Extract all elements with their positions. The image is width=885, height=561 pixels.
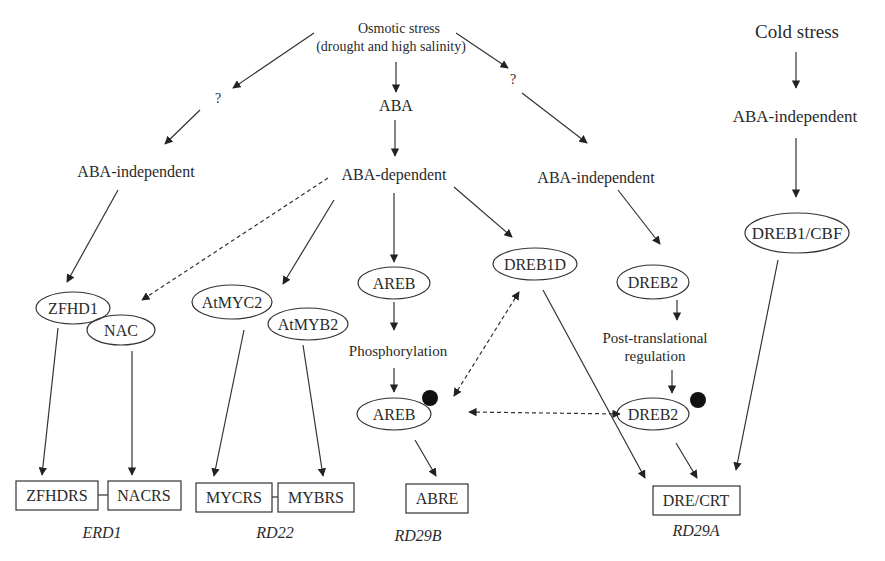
svg-text:DREB1/CBF: DREB1/CBF: [752, 224, 843, 243]
aba-label: ABA: [379, 97, 413, 114]
svg-text:DREB2: DREB2: [628, 274, 679, 291]
tf-areb: AREB: [358, 267, 430, 299]
svg-text:AREB: AREB: [373, 275, 416, 292]
cold-stress-label: Cold stress: [755, 21, 839, 42]
gene-rd29a: RD29A: [671, 522, 719, 539]
tf-dreb2-modified: DREB2: [617, 392, 706, 430]
post-translational-label: Post-translational: [603, 330, 708, 346]
svg-text:MYCRS: MYCRS: [206, 489, 262, 506]
unknown-left-label: ?: [215, 91, 221, 106]
phosphate-dot-icon: [422, 390, 438, 406]
tf-atmyc2: AtMYC2: [192, 285, 272, 319]
svg-text:AtMYB2: AtMYB2: [278, 316, 338, 333]
tf-dreb2: DREB2: [617, 265, 689, 299]
cis-abre: ABRE: [406, 484, 468, 513]
osmotic-stress-label: Osmotic stress: [358, 21, 440, 36]
post-translational-sublabel: regulation: [625, 348, 686, 364]
svg-text:AREB: AREB: [373, 406, 416, 423]
svg-text:DRE/CRT: DRE/CRT: [663, 492, 730, 509]
tf-dreb1d: DREB1D: [493, 248, 577, 280]
stress-signaling-diagram: Osmotic stress (drought and high salinit…: [0, 0, 885, 561]
phosphorylation-label: Phosphorylation: [349, 343, 448, 359]
svg-text:DREB2: DREB2: [628, 406, 679, 423]
svg-text:DREB1D: DREB1D: [504, 256, 566, 273]
svg-text:MYBRS: MYBRS: [288, 489, 344, 506]
aba-dependent-label: ABA-dependent: [342, 166, 447, 184]
osmotic-stress-sublabel: (drought and high salinity): [316, 39, 466, 55]
svg-text:ZFHD1: ZFHD1: [48, 300, 98, 317]
aba-independent-left-label: ABA-independent: [77, 163, 195, 181]
gene-rd29b: RD29B: [393, 527, 441, 544]
tf-nac: NAC: [87, 315, 155, 345]
svg-text:ZFHDRS: ZFHDRS: [26, 487, 87, 504]
svg-text:NAC: NAC: [104, 322, 138, 339]
cis-zfhdrs: ZFHDRS: [16, 481, 98, 510]
unknown-right-label: ?: [510, 72, 516, 87]
gene-rd22: RD22: [255, 524, 293, 541]
modification-dot-icon: [690, 392, 706, 408]
cis-nacrs: NACRS: [108, 481, 181, 510]
aba-independent-cold-label: ABA-independent: [733, 107, 858, 126]
svg-text:NACRS: NACRS: [117, 487, 170, 504]
gene-erd1: ERD1: [81, 524, 121, 541]
cis-dre-crt: DRE/CRT: [653, 486, 740, 515]
tf-atmyb2: AtMYB2: [268, 308, 348, 340]
tf-dreb1-cbf: DREB1/CBF: [745, 213, 849, 253]
cis-mycrs: MYCRS: [196, 483, 272, 512]
aba-independent-mid-label: ABA-independent: [537, 169, 655, 187]
tf-areb-phosphorylated: AREB: [357, 390, 438, 430]
svg-text:AtMYC2: AtMYC2: [202, 294, 262, 311]
cis-mybrs: MYBRS: [278, 483, 354, 512]
svg-text:ABRE: ABRE: [416, 490, 459, 507]
